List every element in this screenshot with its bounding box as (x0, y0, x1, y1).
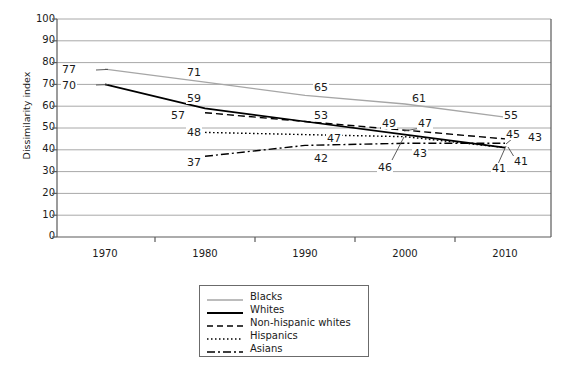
data-label-whites-1970: 70 (61, 80, 77, 91)
legend-item-whites[interactable]: Whites (206, 303, 362, 316)
legend-swatch-whites (206, 304, 244, 316)
data-label-whites-2000: 47 (417, 118, 433, 129)
data-label-whites-1980: 59 (186, 93, 202, 104)
legend-swatch-non-hispanic-whites (206, 317, 244, 329)
data-label-hispanics-2010: 41 (513, 156, 529, 167)
data-label-asians-2000: 43 (412, 148, 428, 159)
data-label-nhw-2010: 45 (505, 129, 521, 140)
data-label-hispanics-2000: 46 (377, 162, 393, 173)
legend-swatch-blacks (206, 291, 244, 303)
y-axis-ticks (52, 19, 57, 237)
legend-item-non-hispanic-whites[interactable]: Non-hispanic whites (206, 316, 362, 329)
legend-label-hispanics: Hispanics (250, 330, 298, 342)
data-label-blacks-1990: 65 (313, 82, 329, 93)
data-label-asians-1980: 37 (186, 157, 202, 168)
data-label-blacks-2010: 55 (503, 110, 519, 121)
x-axis-ticks (155, 237, 455, 242)
legend: Blacks Whites Non-hispanic whites Hispan… (199, 285, 369, 357)
legend-item-asians[interactable]: Asians (206, 342, 362, 355)
data-label-blacks-2000: 61 (411, 93, 427, 104)
data-label-blacks-1970: 77 (61, 64, 77, 75)
legend-swatch-asians (206, 343, 244, 355)
series-line-whites (105, 84, 505, 147)
data-label-whites-2010: 41 (491, 163, 507, 174)
data-label-blacks-1980: 71 (186, 67, 202, 78)
legend-label-asians: Asians (250, 343, 283, 355)
legend-label-non-hispanic-whites: Non-hispanic whites (250, 317, 351, 329)
data-label-hispanics-1990: 47 (326, 133, 342, 144)
data-label-asians-2010: 43 (527, 132, 543, 143)
data-label-whites-1990: 53 (313, 110, 329, 121)
legend-label-whites: Whites (250, 304, 284, 316)
gridlines (57, 19, 551, 215)
data-label-nhw-1980: 57 (170, 110, 186, 121)
legend-item-hispanics[interactable]: Hispanics (206, 329, 362, 342)
data-label-nhw-2000: 49 (381, 118, 397, 129)
data-label-hispanics-1980: 48 (186, 127, 202, 138)
legend-item-blacks[interactable]: Blacks (206, 290, 362, 303)
legend-label-blacks: Blacks (250, 291, 282, 303)
series-line-blacks (105, 69, 505, 117)
data-label-asians-1990: 42 (313, 153, 329, 164)
series-line-non-hispanic-whites (205, 113, 505, 139)
dissimilarity-index-line-chart: Dissimilarity index 100 90 80 70 60 50 4… (0, 0, 568, 365)
legend-swatch-hispanics (206, 330, 244, 342)
